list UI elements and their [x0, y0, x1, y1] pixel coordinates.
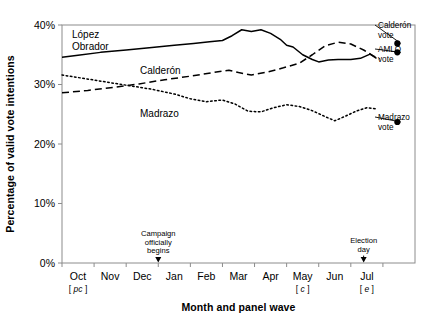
series-label-madrazo: Madrazo [140, 108, 179, 119]
plot-frame [62, 25, 415, 263]
x-tick-label-nov: Nov [101, 270, 120, 282]
vote-intentions-line-chart: 40%30%20%10%0%Percentage of valid vote i… [0, 0, 431, 320]
x-axis-title: Month and panel wave [181, 301, 295, 313]
series-line-l-pez-obrador [62, 30, 376, 62]
campaign-annotation-arrow-head [155, 257, 161, 263]
x-tick-label-jan: Jan [166, 270, 183, 282]
election-annotation-arrow-head [361, 257, 367, 263]
plot-border [62, 25, 415, 263]
series-label-lopez-obrador: LópezObrador [72, 29, 109, 52]
y-axis-title: Percentage of valid vote intentions [4, 55, 16, 232]
x-tick-label-apr: Apr [262, 270, 279, 282]
campaign-annotation: Campaignofficiallybegins [141, 229, 176, 255]
x-tick-label-dec: Dec [133, 270, 152, 282]
y-tick-label: 40% [34, 19, 55, 31]
chart-container: 40%30%20%10%0%Percentage of valid vote i… [0, 0, 431, 320]
vote-marker-label-madrazo-vote: Madrazovote [378, 113, 410, 132]
series-line-madrazo [62, 75, 376, 121]
x-tick-label-may: May [293, 270, 314, 282]
panel-wave-label: [ e ] [360, 284, 374, 294]
x-tick-label-feb: Feb [197, 270, 215, 282]
x-tick-label-jun: Jun [326, 270, 343, 282]
y-tick-label: 0% [40, 257, 55, 269]
y-tick-label: 10% [34, 197, 55, 209]
election-annotation: Electionday [350, 236, 377, 254]
panel-wave-label: [ pc ] [69, 284, 87, 294]
series-line-calder-n [62, 42, 380, 93]
x-tick-label-oct: Oct [70, 270, 86, 282]
x-tick-label-mar: Mar [229, 270, 248, 282]
x-tick-label-jul: Jul [360, 270, 373, 282]
chart-generated-content: 40%30%20%10%0%Percentage of valid vote i… [4, 19, 412, 313]
series-label-calderon: Calderón [140, 65, 181, 76]
y-tick-label: 20% [34, 138, 55, 150]
panel-wave-label: [ c ] [296, 284, 310, 294]
y-tick-label: 30% [34, 78, 55, 90]
